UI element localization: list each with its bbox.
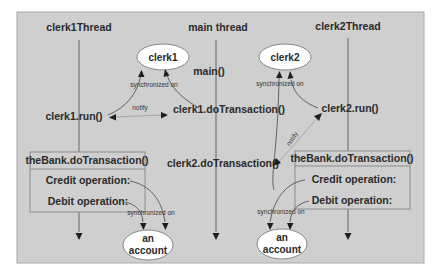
bank-box-1-credit: Credit operation: (46, 174, 131, 186)
bank-box-2: theBank.doTransaction() Credit operation… (290, 151, 413, 209)
sync-label-clerk1: synchronized on (130, 81, 178, 89)
bank-box-2-title: theBank.doTransaction() (290, 152, 413, 164)
notify-label-1: notify (132, 104, 148, 112)
bank-box-2-credit: Credit operation: (312, 173, 397, 185)
object-account-2-line1: an (276, 232, 288, 243)
sync-label-clerk2: synchronized on (256, 80, 304, 88)
thread-sync-diagram: clerk1Thread main thread clerk2Thread cl… (0, 0, 439, 276)
sync-label-account2: synchronized on (257, 208, 305, 216)
thread-label-clerk1: clerk1Thread (46, 21, 111, 33)
object-account-1-line1: an (142, 233, 154, 244)
call-clerk1-run: clerk1.run() (45, 110, 102, 122)
diagram-panel (17, 12, 424, 263)
bank-box-1-title: theBank.doTransaction() (25, 154, 148, 166)
object-clerk2-label: clerk2 (271, 52, 300, 63)
bank-box-1-debit: Debit operation: (48, 195, 129, 207)
sync-label-account1: synchronized on (127, 209, 175, 217)
call-clerk1-dotransaction: clerk1.doTransaction() (173, 103, 285, 115)
object-clerk1: clerk1 (137, 44, 189, 70)
object-clerk2: clerk2 (259, 44, 311, 70)
object-account-2-line2: account (263, 244, 302, 255)
bank-box-2-debit: Debit operation: (312, 194, 393, 206)
thread-label-clerk2: clerk2Thread (315, 20, 380, 32)
object-account-1: an account (123, 230, 173, 260)
call-clerk2-run: clerk2.run() (321, 102, 378, 114)
call-clerk2-dotransaction: clerk2.doTransaction() (167, 157, 279, 169)
object-account-1-line2: account (129, 245, 168, 256)
object-clerk1-label: clerk1 (149, 52, 178, 63)
call-main: main() (193, 65, 225, 77)
thread-label-main: main thread (188, 21, 248, 33)
object-account-2: an account (257, 229, 307, 259)
